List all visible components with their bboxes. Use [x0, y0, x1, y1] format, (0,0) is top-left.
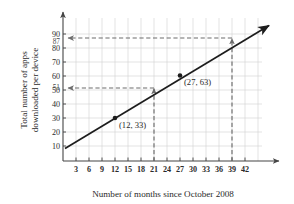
y-special-label-87: 87: [53, 37, 61, 46]
x-tick-label: 27: [176, 165, 184, 174]
x-tick-label: 39: [228, 165, 236, 174]
y-tick-label: 10: [52, 142, 60, 151]
y-axis-title-line2: downloaded per device: [30, 48, 40, 132]
x-tick-label: 6: [87, 165, 91, 174]
y-tick-label: 40: [52, 100, 60, 109]
guide-lines: [68, 38, 232, 161]
x-tick-label: 3: [74, 165, 78, 174]
x-axis-title: Number of months since October 2008: [92, 189, 234, 199]
x-tick-labels: 3 6 9 12 15 18 21 24 27 30 33 36 39 42: [74, 165, 249, 174]
x-tick-label: 18: [137, 165, 145, 174]
x-tick-label: 12: [111, 165, 119, 174]
x-tick-label: 30: [189, 165, 197, 174]
y-tick-label: 70: [52, 58, 60, 67]
data-point-27-63: [178, 73, 183, 78]
x-tick-label: 9: [100, 165, 104, 174]
x-tick-label: 36: [215, 165, 223, 174]
x-tick-label: 42: [241, 165, 249, 174]
line-chart-figure: 3 6 9 12 15 18 21 24 27 30 33 36 39 42 1…: [0, 0, 294, 204]
y-tick-label: 20: [52, 128, 60, 137]
x-tick-label: 24: [163, 165, 171, 174]
x-tick-label: 15: [124, 165, 132, 174]
data-point-12-33: [113, 116, 118, 121]
chart-svg: 3 6 9 12 15 18 21 24 27 30 33 36 39 42 1…: [0, 0, 294, 204]
point-annotation-12-33: (12, 33): [119, 120, 146, 130]
y-tick-label: 60: [52, 72, 60, 81]
x-tick-label: 21: [150, 165, 158, 174]
y-tick-label: 30: [52, 114, 60, 123]
y-special-label-51: 51: [53, 83, 61, 92]
x-tick-label: 33: [202, 165, 210, 174]
point-annotation-27-63: (27, 63): [184, 77, 211, 87]
y-axis-title-line1: Total number of apps: [19, 51, 29, 129]
